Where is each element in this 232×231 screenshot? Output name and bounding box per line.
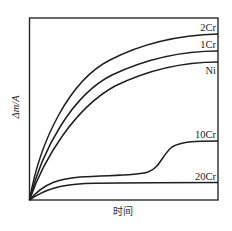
label-20cr: 20Cr [195, 171, 217, 182]
curve-10cr [30, 141, 219, 200]
x-axis-label: 时间 [113, 205, 133, 217]
label-10cr: 10Cr [195, 129, 217, 140]
label-2cr: 2Cr [200, 22, 216, 33]
label-ni: Ni [206, 65, 217, 76]
label-1cr: 1Cr [200, 39, 216, 50]
plot-frame [30, 18, 219, 200]
oxidation-kinetics-chart: 2Cr 1Cr Ni 10Cr 20Cr 时间 Δm/A [0, 0, 232, 231]
y-axis-label: Δm/A [10, 95, 21, 120]
curve-1cr [30, 51, 219, 200]
curve-20cr [30, 183, 219, 201]
